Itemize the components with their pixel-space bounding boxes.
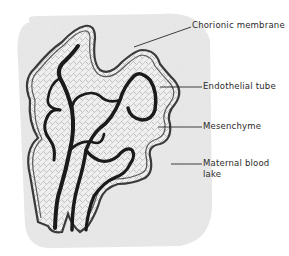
label-maternal-blood-lake-line1: Maternal blood — [203, 158, 269, 168]
label-maternal-blood-lake-line2: lake — [203, 169, 221, 179]
label-mesenchyme: Mesenchyme — [203, 121, 261, 132]
label-chorionic-membrane: Chorionic membrane — [192, 20, 285, 31]
label-endothelial-tube: Endothelial tube — [203, 81, 276, 92]
label-maternal-blood-lake: Maternal blood lake — [203, 158, 269, 180]
